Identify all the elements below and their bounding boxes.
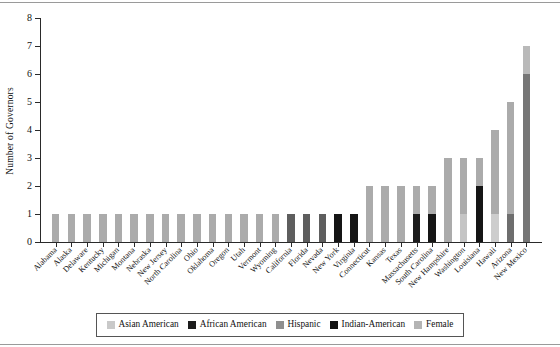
y-tick-label-8: 8 bbox=[27, 13, 32, 23]
bar-segment bbox=[476, 158, 484, 186]
bar-segment bbox=[507, 102, 515, 214]
bar-segment bbox=[460, 158, 468, 214]
bar-segment bbox=[162, 214, 170, 242]
bar[interactable] bbox=[240, 214, 248, 242]
bar[interactable] bbox=[193, 214, 201, 242]
y-tick-label-7: 7 bbox=[27, 41, 32, 51]
legend-swatch-icon bbox=[276, 321, 284, 329]
bar-segment bbox=[209, 214, 217, 242]
bar[interactable] bbox=[350, 214, 358, 242]
bar[interactable] bbox=[491, 130, 499, 242]
bar-segment bbox=[303, 214, 311, 242]
bar[interactable] bbox=[366, 186, 374, 242]
y-tick-label-5: 5 bbox=[27, 97, 32, 107]
bar-segment bbox=[460, 214, 468, 242]
bar-segment bbox=[428, 186, 436, 214]
bar-segment bbox=[366, 186, 374, 242]
bar-segment bbox=[476, 186, 484, 242]
bar[interactable] bbox=[523, 46, 531, 242]
bar[interactable] bbox=[428, 186, 436, 242]
legend-label: Asian American bbox=[119, 320, 179, 329]
bar[interactable] bbox=[162, 214, 170, 242]
legend-label: Female bbox=[426, 320, 453, 329]
bar[interactable] bbox=[177, 214, 185, 242]
bar[interactable] bbox=[130, 214, 138, 242]
bar-segment bbox=[272, 214, 280, 242]
bar-segment bbox=[491, 214, 499, 242]
legend-label: Indian-American bbox=[342, 320, 406, 329]
bar-segment bbox=[523, 46, 531, 74]
top-divider-rule bbox=[0, 2, 560, 3]
bar[interactable] bbox=[83, 214, 91, 242]
bar-segment bbox=[428, 214, 436, 242]
bar[interactable] bbox=[225, 214, 233, 242]
bar-segment bbox=[444, 158, 452, 242]
bar[interactable] bbox=[397, 186, 405, 242]
legend-swatch-icon bbox=[414, 321, 422, 329]
bar-segment bbox=[146, 214, 154, 242]
bar[interactable] bbox=[99, 214, 107, 242]
y-axis-title: Number of Governors bbox=[5, 87, 15, 175]
bar-segment bbox=[491, 130, 499, 214]
bar-segment bbox=[177, 214, 185, 242]
plot-area: Number of Governors 012345678 bbox=[40, 18, 542, 243]
y-tick-label-3: 3 bbox=[27, 153, 32, 163]
legend-item[interactable]: Hispanic bbox=[276, 320, 321, 329]
bar[interactable] bbox=[303, 214, 311, 242]
bar[interactable] bbox=[334, 214, 342, 242]
bar[interactable] bbox=[413, 186, 421, 242]
bar-segment bbox=[52, 214, 60, 242]
bar-segment bbox=[68, 214, 76, 242]
bar[interactable] bbox=[209, 214, 217, 242]
bar[interactable] bbox=[381, 186, 389, 242]
legend-item[interactable]: Indian-American bbox=[330, 320, 406, 329]
bar[interactable] bbox=[476, 158, 484, 242]
bar-segment bbox=[83, 214, 91, 242]
legend-label: Hispanic bbox=[288, 320, 321, 329]
bar[interactable] bbox=[507, 102, 515, 242]
bars-group bbox=[40, 18, 542, 243]
bar-segment bbox=[413, 214, 421, 242]
bar-segment bbox=[256, 214, 264, 242]
legend-label: African American bbox=[200, 320, 267, 329]
y-tick-label-4: 4 bbox=[27, 125, 32, 135]
legend-item[interactable]: Female bbox=[414, 320, 453, 329]
bar-segment bbox=[523, 74, 531, 242]
bar[interactable] bbox=[68, 214, 76, 242]
bar-segment bbox=[193, 214, 201, 242]
bar[interactable] bbox=[256, 214, 264, 242]
bar[interactable] bbox=[444, 158, 452, 242]
y-tick-label-2: 2 bbox=[27, 181, 32, 191]
y-tick-label-0: 0 bbox=[27, 237, 32, 247]
legend-item[interactable]: African American bbox=[188, 320, 267, 329]
bar-segment bbox=[413, 186, 421, 214]
bar-segment bbox=[130, 214, 138, 242]
bar-segment bbox=[381, 186, 389, 242]
bar-segment bbox=[397, 186, 405, 242]
bar[interactable] bbox=[146, 214, 154, 242]
bar[interactable] bbox=[319, 214, 327, 242]
chart-legend: Asian AmericanAfrican AmericanHispanicIn… bbox=[96, 313, 464, 337]
legend-swatch-icon bbox=[107, 321, 115, 329]
bar-segment bbox=[319, 214, 327, 242]
bar-segment bbox=[334, 214, 342, 242]
bar-segment bbox=[240, 214, 248, 242]
legend-swatch-icon bbox=[188, 321, 196, 329]
bar-segment bbox=[115, 214, 123, 242]
x-axis-labels: AlabamaAlaskaDelawareKentuckyMichiganMon… bbox=[40, 243, 542, 305]
legend-item[interactable]: Asian American bbox=[107, 320, 179, 329]
bar[interactable] bbox=[52, 214, 60, 242]
bar-segment bbox=[507, 214, 515, 242]
bar-segment bbox=[225, 214, 233, 242]
bar[interactable] bbox=[460, 158, 468, 242]
y-tick-label-1: 1 bbox=[27, 209, 32, 219]
bar[interactable] bbox=[287, 214, 295, 242]
bar-segment bbox=[350, 214, 358, 242]
bar-segment bbox=[99, 214, 107, 242]
bar[interactable] bbox=[272, 214, 280, 242]
bar-segment bbox=[287, 214, 295, 242]
bar[interactable] bbox=[115, 214, 123, 242]
figure-container: Number of Governors 012345678 AlabamaAla… bbox=[0, 0, 560, 347]
y-tick-label-6: 6 bbox=[27, 69, 32, 79]
legend-swatch-icon bbox=[330, 321, 338, 329]
